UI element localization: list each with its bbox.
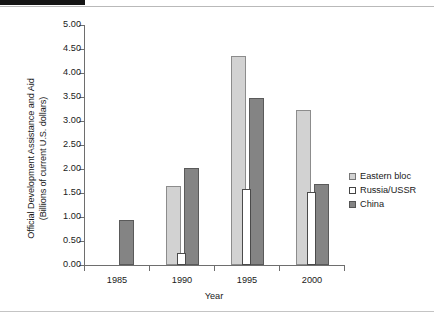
legend-item-label: China: [360, 199, 384, 209]
y-axis-tick: 4.00: [84, 73, 85, 74]
y-axis-tick-label: 1.00: [63, 211, 81, 221]
bar-china-2000: [314, 184, 329, 265]
y-axis-tick-label: 4.00: [63, 67, 81, 77]
y-axis-tick-label: 4.50: [63, 43, 81, 53]
x-axis-tick-label: 1995: [217, 275, 277, 285]
y-axis-tick: 5.00: [84, 25, 85, 26]
y-axis-tick-label: 1.50: [63, 187, 81, 197]
y-axis-tick-label: 2.00: [63, 163, 81, 173]
x-axis-tick-label: 1985: [87, 275, 147, 285]
bar-russia-2000: [307, 192, 316, 265]
y-axis-tick-label: 3.00: [63, 115, 81, 125]
y-axis-title: Official Development Assistance and Aid …: [26, 44, 49, 274]
legend-swatch-icon: [349, 201, 356, 208]
y-axis-tick: 4.50: [84, 49, 85, 50]
x-axis-tick-mark: [214, 266, 215, 271]
x-axis-tick-mark: [344, 266, 345, 271]
y-axis-tick-label: 3.50: [63, 91, 81, 101]
bar-russia-1990: [177, 253, 186, 265]
x-axis-tick-mark: [149, 266, 150, 271]
y-axis-tick: 3.50: [84, 97, 85, 98]
chart-legend: Eastern blocRussia/USSRChina: [349, 169, 416, 211]
legend-swatch-icon: [349, 173, 356, 180]
legend-swatch-icon: [349, 187, 356, 194]
bar-china-1995: [249, 98, 264, 265]
x-axis-tick-label: 2000: [282, 275, 342, 285]
legend-item-russia: Russia/USSR: [349, 183, 416, 197]
y-axis-tick-label: 5.00: [63, 19, 81, 29]
y-axis-tick-label: 0.00: [63, 259, 81, 269]
bar-russia-1995: [242, 189, 251, 265]
bar-chart-figure: Official Development Assistance and Aid …: [0, 7, 434, 311]
page-top-black-bar: [0, 0, 85, 5]
legend-item-label: Eastern bloc: [360, 171, 411, 181]
y-axis-tick: 2.00: [84, 169, 85, 170]
y-axis-title-line-2: (Billions of current U.S. dollars): [37, 44, 49, 274]
page-bottom-rule: [0, 311, 434, 312]
legend-item-eastern: Eastern bloc: [349, 169, 416, 183]
y-axis-title-line-1: Official Development Assistance and Aid: [26, 44, 38, 274]
legend-item-china: China: [349, 197, 416, 211]
bar-china-1985: [119, 220, 134, 265]
y-axis-tick: 1.50: [84, 193, 85, 194]
x-axis-tick-label: 1990: [152, 275, 212, 285]
plot-area: 0.000.501.001.502.002.503.003.504.004.50…: [84, 25, 344, 265]
x-axis-title: Year: [84, 291, 344, 301]
bar-china-1990: [184, 168, 199, 265]
y-axis-tick-label: 2.50: [63, 139, 81, 149]
y-axis-tick: 3.00: [84, 121, 85, 122]
legend-item-label: Russia/USSR: [360, 185, 416, 195]
x-axis-tick-mark: [84, 266, 85, 271]
y-axis-tick: 0.50: [84, 241, 85, 242]
x-axis-tick-mark: [279, 266, 280, 271]
y-axis-tick-label: 0.50: [63, 235, 81, 245]
y-axis-tick: 2.50: [84, 145, 85, 146]
y-axis-tick: 1.00: [84, 217, 85, 218]
